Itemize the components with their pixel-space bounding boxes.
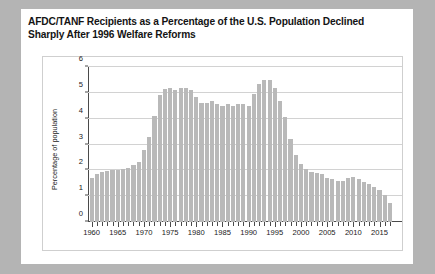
x-tick-mark <box>327 222 328 227</box>
x-tick-mark <box>254 222 255 226</box>
bar <box>189 90 193 222</box>
bar <box>315 173 319 222</box>
bar <box>163 89 167 222</box>
y-tick-label-5: 5 <box>79 79 83 88</box>
x-tick-mark <box>306 222 307 226</box>
bar <box>351 177 355 222</box>
x-tick-mark <box>128 222 129 226</box>
bar <box>346 178 350 222</box>
y-tick-label-6: 6 <box>79 54 83 63</box>
x-tick-mark <box>364 222 365 226</box>
x-tick-mark <box>102 222 103 226</box>
x-tick-mark <box>222 222 223 227</box>
bar <box>288 139 292 222</box>
x-tick-mark <box>317 222 318 226</box>
plot-area: Percentage of population 0123456 1960196… <box>88 67 393 222</box>
bar <box>121 169 125 222</box>
bar <box>168 88 172 222</box>
bar <box>205 103 209 222</box>
x-tick-label-1980: 1980 <box>188 228 205 237</box>
x-tick-mark <box>207 222 208 226</box>
x-tick-mark <box>217 222 218 226</box>
x-tick-mark <box>270 222 271 226</box>
x-axis-ticks: 1960196519701975198019851990199520002005… <box>89 222 393 227</box>
bar <box>388 203 392 222</box>
x-tick-mark <box>144 222 145 227</box>
x-tick-slot <box>387 222 392 227</box>
y-tick-mark-3 <box>85 143 88 144</box>
bar <box>236 104 240 222</box>
x-tick-label-1990: 1990 <box>240 228 257 237</box>
x-tick-mark <box>380 222 381 227</box>
x-tick-label-1995: 1995 <box>266 228 283 237</box>
bar <box>367 184 371 222</box>
bar <box>95 174 99 222</box>
bar <box>126 168 130 222</box>
bar <box>116 170 120 222</box>
bar <box>100 172 104 222</box>
y-tick-mark-1 <box>85 195 88 196</box>
y-tick-mark-4 <box>85 117 88 118</box>
bar <box>294 155 298 222</box>
x-tick-mark <box>291 222 292 226</box>
x-tick-mark <box>149 222 150 226</box>
x-tick-mark <box>228 222 229 226</box>
bar <box>142 150 146 222</box>
bar-series <box>89 67 393 222</box>
x-tick-mark <box>123 222 124 226</box>
x-tick-label-1960: 1960 <box>83 228 100 237</box>
x-tick-label-2010: 2010 <box>345 228 362 237</box>
x-tick-mark <box>233 222 234 226</box>
x-tick-mark <box>238 222 239 226</box>
x-tick-mark <box>301 222 302 227</box>
x-tick-mark <box>165 222 166 226</box>
x-tick-mark <box>369 222 370 226</box>
x-tick-mark <box>186 222 187 226</box>
x-tick-mark <box>139 222 140 226</box>
bar <box>131 165 135 222</box>
x-tick-mark <box>348 222 349 226</box>
x-tick-mark <box>118 222 119 227</box>
x-tick-mark <box>107 222 108 226</box>
x-tick-mark <box>113 222 114 226</box>
chart-card: AFDC/TANF Recipients as a Percentage of … <box>21 9 413 264</box>
x-tick-mark <box>359 222 360 226</box>
x-tick-label-2005: 2005 <box>319 228 336 237</box>
x-tick-mark <box>353 222 354 227</box>
x-tick-mark <box>285 222 286 226</box>
bar <box>173 90 177 222</box>
bar <box>330 179 334 222</box>
bar <box>247 106 251 222</box>
x-tick-label-1985: 1985 <box>214 228 231 237</box>
bar <box>210 101 214 222</box>
x-tick-label-1975: 1975 <box>162 228 179 237</box>
y-tick-mark-2 <box>85 169 88 170</box>
x-tick-mark <box>154 222 155 226</box>
x-tick-mark <box>97 222 98 226</box>
y-tick-label-1: 1 <box>79 183 83 192</box>
x-tick-label-2000: 2000 <box>293 228 310 237</box>
bar <box>184 88 188 222</box>
bar <box>341 181 345 222</box>
y-tick-label-4: 4 <box>79 105 83 114</box>
y-axis-label: Percentage of population <box>50 86 59 212</box>
bar <box>252 94 256 222</box>
x-tick-mark <box>311 222 312 226</box>
x-tick-mark <box>390 222 391 226</box>
bar <box>199 103 203 222</box>
y-tick-label-2: 2 <box>79 157 83 166</box>
x-tick-mark <box>202 222 203 226</box>
x-tick-mark <box>249 222 250 227</box>
bar <box>273 88 277 222</box>
bar <box>357 179 361 222</box>
bar <box>90 178 94 222</box>
x-tick-mark <box>296 222 297 226</box>
x-tick-mark <box>243 222 244 226</box>
x-tick-mark <box>322 222 323 226</box>
plot-frame: Percentage of population 0123456 1960196… <box>42 56 403 251</box>
y-tick-mark-6 <box>85 66 88 67</box>
x-tick-mark <box>160 222 161 226</box>
bar <box>152 116 156 222</box>
bar <box>226 104 230 222</box>
bar <box>278 101 282 222</box>
